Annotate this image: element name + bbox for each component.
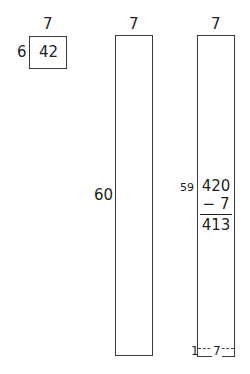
small-box-area-label: 42 xyxy=(39,45,58,60)
removed-strip-width-label: 7 xyxy=(212,345,222,357)
fraction-rule xyxy=(200,214,232,215)
small-box-width-label: 7 xyxy=(43,17,53,32)
subtrahend: − 7 xyxy=(200,197,232,213)
small-box-height-label: 6 xyxy=(17,45,27,60)
subtract-box-width-label: 7 xyxy=(211,17,221,32)
subtraction-expression: 420 − 7 413 xyxy=(200,179,232,236)
tall-box-width-label: 7 xyxy=(129,17,139,32)
removed-strip-height-label: 1 xyxy=(191,345,199,357)
tall-box-height-label: 60 xyxy=(94,188,113,203)
tall-box xyxy=(115,35,153,356)
difference: 413 xyxy=(200,218,232,236)
subtract-box-height-label: 59 xyxy=(180,182,194,193)
